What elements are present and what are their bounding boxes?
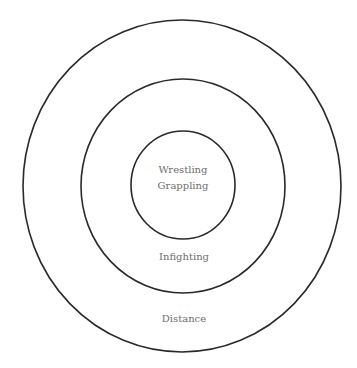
label-wrestling: Wrestling: [159, 164, 209, 175]
label-distance: Distance: [162, 313, 206, 324]
label-infighting: Infighting: [159, 251, 210, 262]
concentric-range-diagram: Wrestling Grappling Infighting Distance: [0, 0, 357, 368]
label-grappling: Grappling: [158, 180, 209, 191]
